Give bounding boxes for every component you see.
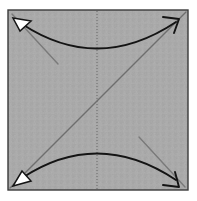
origami-fold-diagram bbox=[0, 0, 197, 201]
diagram-canvas bbox=[0, 0, 197, 201]
